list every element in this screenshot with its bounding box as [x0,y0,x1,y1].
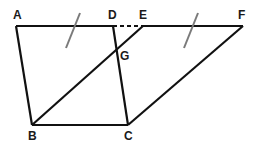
label-D: D [108,8,117,22]
label-G: G [120,49,129,63]
label-A: A [13,8,22,22]
label-B: B [28,129,37,143]
segment-AB [16,26,32,125]
geometry-diagram: A D E F G B C [0,0,258,148]
label-E: E [139,8,147,22]
segment-CF [128,26,243,125]
label-F: F [238,8,245,22]
tick-mark-AD [66,13,80,48]
label-C: C [124,129,133,143]
tick-mark-EF [184,13,198,48]
